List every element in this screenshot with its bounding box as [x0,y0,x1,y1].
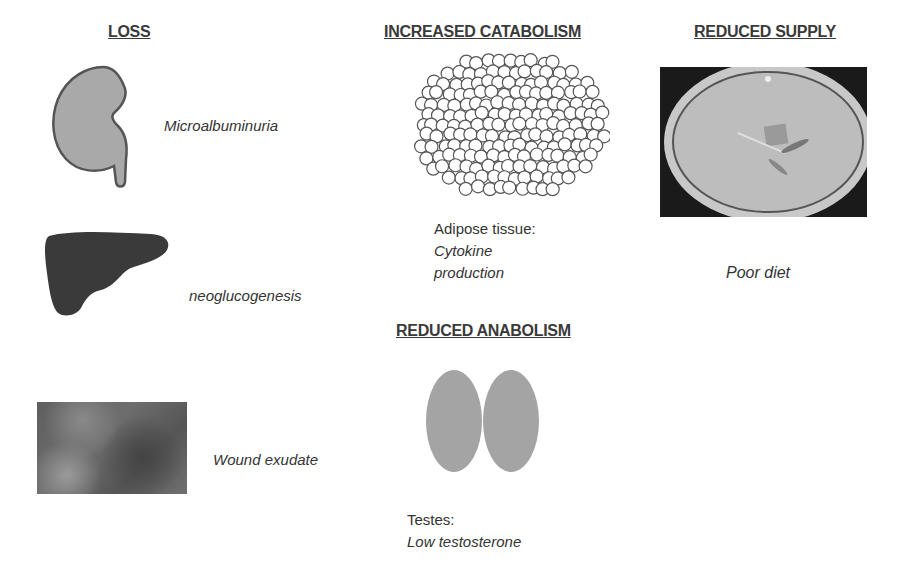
adipose-cells-icon [410,52,610,200]
heading-reduced-supply: REDUCED SUPPLY [694,23,836,41]
label-microalbuminuria: Microalbuminuria [164,117,278,134]
label-neoglucogenesis: neoglucogenesis [189,287,302,304]
liver-icon [41,228,173,320]
label-wound-exudate: Wound exudate [213,451,318,468]
testes-icon [425,369,541,475]
heading-reduced-anabolism: REDUCED ANABOLISM [396,322,571,340]
caption-cytokine: Cytokine [434,240,536,262]
caption-testes: Testes: Low testosterone [407,509,521,553]
caption-testes-label: Testes: [407,509,521,531]
wound-photo [37,402,187,494]
kidney-icon [48,64,138,189]
heading-increased-catabolism: INCREASED CATABOLISM [384,23,581,41]
caption-adipose: Adipose tissue: Cytokine production [434,218,536,284]
empty-plate-photo [660,67,867,217]
caption-adipose-tissue: Adipose tissue: [434,218,536,240]
heading-loss: LOSS [108,23,150,41]
caption-poor-diet: Poor diet [726,264,790,282]
caption-production: production [434,262,536,284]
caption-low-testosterone: Low testosterone [407,531,521,553]
